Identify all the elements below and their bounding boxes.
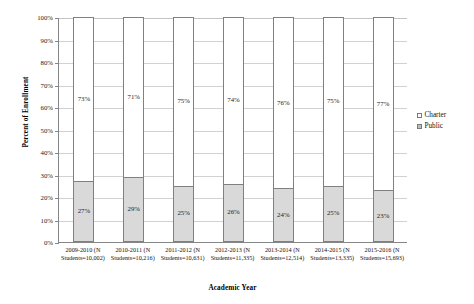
plot-area: 100%90%80%70%60%50%40%30%20%10%0% 73%27%…: [58, 18, 407, 243]
x-tick-label-n: Students=13,335): [307, 254, 357, 262]
bar-column[interactable]: 73%27%: [73, 17, 94, 242]
y-tick-label: 50%: [25, 127, 53, 134]
bar-value-label: 75%: [177, 98, 189, 105]
bar-segment-public[interactable]: 26%: [223, 184, 244, 243]
bar-value-label: 23%: [377, 213, 389, 220]
x-tick-label-year: 2015-2016 (N: [357, 246, 407, 254]
x-tick-label: 2013-2014 (NStudents=12,514): [257, 246, 307, 262]
bar-value-label: 27%: [78, 208, 90, 215]
x-tick-label-year: 2014-2015 (N: [307, 246, 357, 254]
bar-segment-public[interactable]: 23%: [373, 190, 394, 242]
y-tick-label: 90%: [25, 37, 53, 44]
y-tick-label: 10%: [25, 217, 53, 224]
x-tick-label-year: 2013-2014 (N: [257, 246, 307, 254]
bar-segment-charter[interactable]: 77%: [373, 17, 394, 190]
x-axis-tick-labels: 2009-2010 (NStudents=10,002)2010-2011 (N…: [58, 246, 407, 272]
bar-value-label: 25%: [327, 210, 339, 217]
bar-segment-charter[interactable]: 75%: [173, 17, 194, 186]
bar-value-label: 76%: [277, 100, 289, 107]
bar-segment-charter[interactable]: 75%: [323, 17, 344, 186]
bar-column[interactable]: 75%25%: [323, 17, 344, 242]
bar-column[interactable]: 76%24%: [273, 17, 294, 242]
bar-column[interactable]: 74%26%: [223, 17, 244, 242]
y-tick-label: 0%: [25, 240, 53, 247]
y-tick-label: 30%: [25, 172, 53, 179]
bar-value-label: 26%: [227, 209, 239, 216]
x-tick-label: 2010-2011 (NStudents=10,216): [108, 246, 158, 262]
bar-value-label: 24%: [277, 212, 289, 219]
bar-value-label: 75%: [327, 98, 339, 105]
y-tick-label: 40%: [25, 150, 53, 157]
legend-item[interactable]: Charter: [417, 110, 446, 121]
bar-value-label: 77%: [377, 101, 389, 108]
bar-segment-charter[interactable]: 74%: [223, 17, 244, 184]
x-tick-label-n: Students=15,693): [357, 254, 407, 262]
bar-segment-public[interactable]: 24%: [273, 188, 294, 242]
y-tick-mark: [55, 243, 59, 244]
x-tick-label: 2012-2013 (NStudents=11,335): [208, 246, 258, 262]
bar-value-label: 73%: [78, 96, 90, 103]
x-tick-label-n: Students=10,216): [108, 254, 158, 262]
bar-segment-public[interactable]: 29%: [123, 177, 144, 242]
legend-label: Public: [425, 121, 443, 132]
bar-series-group: 73%27%71%29%75%25%74%26%76%24%75%25%77%2…: [59, 18, 407, 242]
x-tick-label: 2009-2010 (NStudents=10,002): [58, 246, 108, 262]
bar-segment-public[interactable]: 25%: [173, 186, 194, 242]
x-tick-label-year: 2010-2011 (N: [108, 246, 158, 254]
bar-segment-charter[interactable]: 76%: [273, 17, 294, 188]
bar-column[interactable]: 77%23%: [373, 17, 394, 242]
x-tick-label-year: 2011-2012 (N: [158, 246, 208, 254]
y-tick-label: 70%: [25, 82, 53, 89]
bar-value-label: 71%: [128, 94, 140, 101]
x-tick-label-n: Students=12,514): [257, 254, 307, 262]
x-tick-label: 2015-2016 (NStudents=15,693): [357, 246, 407, 262]
y-tick-label: 80%: [25, 60, 53, 67]
legend-label: Charter: [425, 110, 447, 121]
x-tick-label: 2011-2012 (NStudents=10,631): [158, 246, 208, 262]
bar-column[interactable]: 71%29%: [123, 17, 144, 242]
stacked-bar-chart: Percent of Enrollment 100%90%80%70%60%50…: [0, 0, 474, 304]
bar-value-label: 29%: [128, 206, 140, 213]
chart-legend: CharterPublic: [417, 110, 446, 132]
bar-segment-public[interactable]: 25%: [323, 186, 344, 242]
bar-value-label: 74%: [227, 97, 239, 104]
legend-swatch-charter: [417, 113, 422, 118]
x-tick-label-n: Students=10,631): [158, 254, 208, 262]
x-tick-label-n: Students=11,335): [208, 254, 258, 262]
y-tick-label: 60%: [25, 105, 53, 112]
legend-item[interactable]: Public: [417, 121, 446, 132]
bar-segment-charter[interactable]: 71%: [123, 17, 144, 177]
x-axis-title: Academic Year: [58, 284, 407, 292]
bar-segment-charter[interactable]: 73%: [73, 17, 94, 181]
x-tick-label: 2014-2015 (NStudents=13,335): [307, 246, 357, 262]
x-tick-label-year: 2012-2013 (N: [208, 246, 258, 254]
bar-column[interactable]: 75%25%: [173, 17, 194, 242]
bar-segment-public[interactable]: 27%: [73, 181, 94, 242]
y-tick-label: 20%: [25, 195, 53, 202]
x-tick-label-n: Students=10,002): [58, 254, 108, 262]
y-tick-label: 100%: [25, 15, 53, 22]
bar-value-label: 25%: [177, 210, 189, 217]
x-tick-label-year: 2009-2010 (N: [58, 246, 108, 254]
legend-swatch-public: [417, 124, 422, 129]
